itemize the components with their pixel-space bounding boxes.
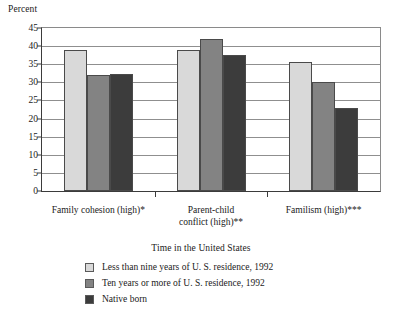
legend-item-label: Ten years or more of U. S. residence, 19… xyxy=(102,278,265,288)
legend: Time in the United States Less than nine… xyxy=(0,243,402,307)
light-gray-swatch xyxy=(85,263,94,272)
y-tick-mark xyxy=(37,100,41,101)
category-labels: Family cohesion (high)*Parent-child conf… xyxy=(0,204,402,238)
y-tick-label: 35 xyxy=(4,59,38,69)
y-tick-mark xyxy=(37,136,41,137)
bar xyxy=(87,75,110,191)
y-tick-label: 25 xyxy=(4,95,38,105)
y-tick-mark xyxy=(37,46,41,47)
legend-title: Time in the United States xyxy=(0,243,402,253)
medium-gray-swatch xyxy=(85,279,94,288)
y-tick-mark xyxy=(37,191,41,192)
y-tick-label: 20 xyxy=(4,114,38,124)
bar-chart-figure: Percent 454035302520151050 Family cohesi… xyxy=(0,0,402,330)
y-tick-mark xyxy=(37,154,41,155)
y-axis-title: Percent xyxy=(8,4,37,14)
y-tick-mark xyxy=(37,82,41,83)
legend-item: Less than nine years of U. S. residence,… xyxy=(85,259,317,275)
legend-items: Less than nine years of U. S. residence,… xyxy=(85,259,317,307)
bar xyxy=(177,50,200,191)
legend-item: Native born xyxy=(85,291,317,307)
bar xyxy=(312,82,335,191)
y-tick-label: 40 xyxy=(4,41,38,51)
bar xyxy=(110,74,133,191)
y-tick-label: 10 xyxy=(4,150,38,160)
y-tick-label: 0 xyxy=(4,186,38,196)
y-tick-mark xyxy=(37,172,41,173)
legend-item-label: Less than nine years of U. S. residence,… xyxy=(102,262,273,272)
bar xyxy=(335,108,358,191)
dark-gray-swatch xyxy=(85,295,94,304)
bar xyxy=(200,39,223,191)
category-label: Familism (high)*** xyxy=(286,204,362,216)
y-tick-label: 30 xyxy=(4,77,38,87)
plot-area: 454035302520151050 xyxy=(0,22,402,202)
legend-item: Ten years or more of U. S. residence, 19… xyxy=(85,275,317,291)
bar xyxy=(223,55,246,191)
y-tick-label: 15 xyxy=(4,132,38,142)
category-label: Family cohesion (high)* xyxy=(52,204,145,216)
x-axis-tick xyxy=(155,192,156,197)
y-tick-label: 45 xyxy=(4,23,38,33)
y-tick-label: 5 xyxy=(4,168,38,178)
bar xyxy=(64,50,87,191)
bar xyxy=(289,62,312,191)
y-tick-mark xyxy=(37,118,41,119)
category-label: Parent-child conflict (high)** xyxy=(179,204,243,228)
legend-item-label: Native born xyxy=(102,294,147,304)
bars-layer xyxy=(42,28,380,191)
y-tick-mark xyxy=(37,64,41,65)
x-axis-tick xyxy=(267,192,268,197)
y-tick-mark xyxy=(37,28,41,29)
